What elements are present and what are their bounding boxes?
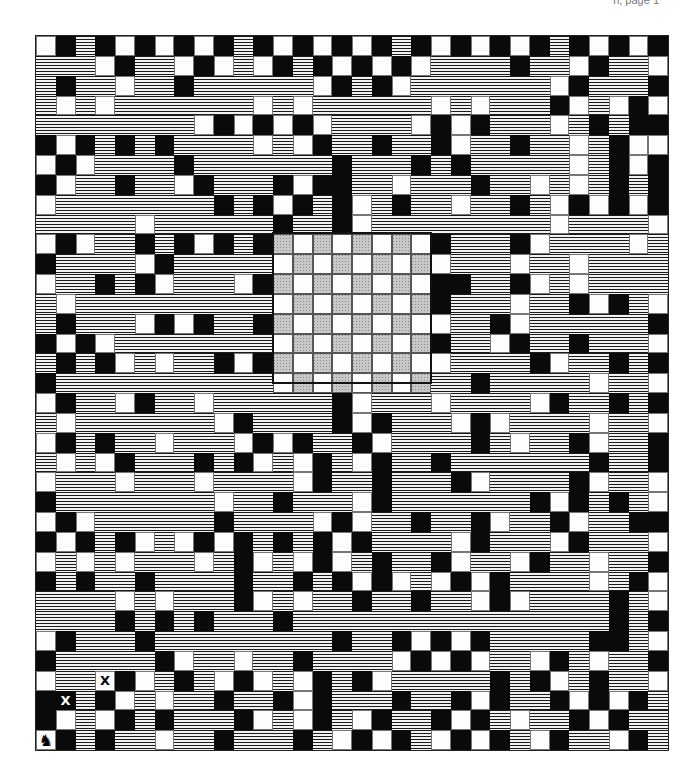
white-square[interactable] (352, 572, 372, 592)
white-square[interactable] (648, 334, 668, 354)
white-square[interactable] (510, 552, 530, 572)
water-square[interactable] (490, 492, 510, 512)
water-square[interactable] (56, 373, 76, 393)
water-square[interactable] (253, 572, 273, 592)
black-square[interactable] (569, 710, 589, 730)
white-square[interactable] (550, 492, 570, 512)
black-square[interactable] (135, 393, 155, 413)
black-square[interactable] (313, 472, 333, 492)
water-square[interactable] (352, 651, 372, 671)
chessboard-light-square[interactable] (293, 274, 313, 294)
water-square[interactable] (194, 591, 214, 611)
black-square[interactable] (609, 195, 629, 215)
water-square[interactable] (530, 433, 550, 453)
black-square[interactable] (550, 96, 570, 116)
white-square[interactable] (36, 234, 56, 254)
black-square[interactable] (629, 115, 649, 135)
water-square[interactable] (490, 353, 510, 373)
water-square[interactable] (609, 532, 629, 552)
white-square[interactable] (648, 294, 668, 314)
water-square[interactable] (234, 492, 254, 512)
water-square[interactable] (629, 175, 649, 195)
water-square[interactable] (550, 334, 570, 354)
chessboard-dark-square[interactable] (313, 274, 333, 294)
white-square[interactable] (451, 135, 471, 155)
water-square[interactable] (194, 572, 214, 592)
black-square[interactable] (392, 195, 412, 215)
water-square[interactable] (550, 552, 570, 572)
water-square[interactable] (392, 453, 412, 473)
black-square[interactable] (451, 651, 471, 671)
water-square[interactable] (135, 512, 155, 532)
white-square[interactable] (36, 274, 56, 294)
water-square[interactable] (234, 234, 254, 254)
water-square[interactable] (135, 591, 155, 611)
black-square[interactable] (76, 532, 96, 552)
black-square[interactable] (313, 552, 333, 572)
white-square[interactable] (471, 651, 491, 671)
white-square[interactable] (115, 353, 135, 373)
white-square[interactable] (451, 115, 471, 135)
white-square[interactable] (530, 651, 550, 671)
water-square[interactable] (352, 155, 372, 175)
black-square[interactable] (313, 175, 333, 195)
black-square[interactable] (352, 671, 372, 691)
water-square[interactable] (273, 453, 293, 473)
white-square[interactable] (56, 710, 76, 730)
chessboard-dark-square[interactable] (332, 334, 352, 354)
black-square[interactable] (550, 512, 570, 532)
water-square[interactable] (76, 710, 96, 730)
black-square[interactable] (155, 611, 175, 631)
water-square[interactable] (471, 234, 491, 254)
black-square[interactable] (332, 393, 352, 413)
white-square[interactable] (76, 552, 96, 572)
black-square[interactable]: X (56, 691, 76, 711)
water-square[interactable] (451, 56, 471, 76)
white-square[interactable] (234, 274, 254, 294)
water-square[interactable] (76, 254, 96, 274)
black-square[interactable] (352, 591, 372, 611)
white-square[interactable] (36, 671, 56, 691)
black-square[interactable] (36, 492, 56, 512)
water-square[interactable] (135, 611, 155, 631)
water-square[interactable] (589, 591, 609, 611)
white-square[interactable] (273, 433, 293, 453)
black-square[interactable] (372, 135, 392, 155)
water-square[interactable] (629, 215, 649, 235)
water-square[interactable] (95, 155, 115, 175)
chessboard-dark-square[interactable] (313, 353, 333, 373)
black-square[interactable] (471, 373, 491, 393)
water-square[interactable] (293, 155, 313, 175)
water-square[interactable] (76, 215, 96, 235)
black-square[interactable] (550, 691, 570, 711)
water-square[interactable] (95, 115, 115, 135)
white-square[interactable] (550, 215, 570, 235)
black-square[interactable] (95, 36, 115, 56)
water-square[interactable] (313, 611, 333, 631)
white-square[interactable] (609, 691, 629, 711)
white-square[interactable] (36, 472, 56, 492)
water-square[interactable] (490, 453, 510, 473)
water-square[interactable] (411, 532, 431, 552)
water-square[interactable] (510, 472, 530, 492)
white-square[interactable] (234, 115, 254, 135)
water-square[interactable] (253, 472, 273, 492)
white-square[interactable] (253, 135, 273, 155)
water-square[interactable] (629, 671, 649, 691)
black-square[interactable] (648, 453, 668, 473)
black-square[interactable] (451, 274, 471, 294)
white-square[interactable] (589, 433, 609, 453)
water-square[interactable] (530, 532, 550, 552)
water-square[interactable] (431, 175, 451, 195)
water-square[interactable] (411, 96, 431, 116)
water-square[interactable] (392, 215, 412, 235)
white-square[interactable] (352, 195, 372, 215)
water-square[interactable] (95, 76, 115, 96)
chessboard-dark-square[interactable] (392, 314, 412, 334)
water-square[interactable] (510, 691, 530, 711)
water-square[interactable] (115, 274, 135, 294)
water-square[interactable] (155, 115, 175, 135)
black-square[interactable] (332, 76, 352, 96)
black-square[interactable] (253, 115, 273, 135)
white-square[interactable] (569, 691, 589, 711)
